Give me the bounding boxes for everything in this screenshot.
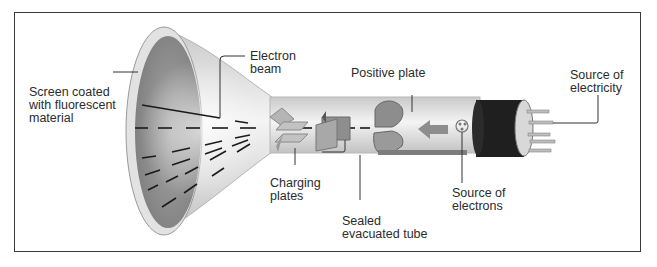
label-charging-plates: Charging plates: [270, 177, 321, 203]
tube-base-connector: [472, 100, 533, 157]
label-electron-beam: Electron beam: [250, 50, 296, 76]
label-source-of-electrons: Source of electrons: [452, 187, 506, 213]
label-sealed-evacuated-tube: Sealed evacuated tube: [342, 215, 428, 241]
cathode-ray-tube-illustration: [0, 0, 657, 267]
label-screen: Screen coated with fluorescent material: [29, 86, 116, 125]
label-positive-plate: Positive plate: [351, 67, 425, 80]
label-source-of-electricity: Source of electricity: [570, 69, 624, 95]
